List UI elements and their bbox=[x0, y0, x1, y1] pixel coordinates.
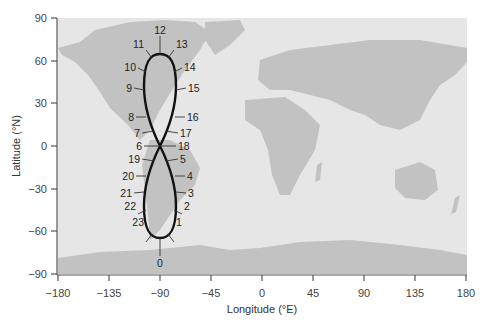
x-tick-0: 0 bbox=[259, 287, 265, 299]
x-tick-45: 45 bbox=[307, 287, 319, 299]
hour-label-14: 14 bbox=[184, 61, 196, 73]
hour-label-7: 7 bbox=[134, 127, 140, 139]
x-tick-180: 180 bbox=[457, 287, 475, 299]
hour-label-6: 6 bbox=[136, 140, 142, 152]
y-tick-90: 90 bbox=[35, 12, 47, 24]
hour-label-23: 23 bbox=[132, 216, 144, 228]
hour-label-16: 16 bbox=[187, 111, 199, 123]
x-tick-135: 135 bbox=[406, 287, 424, 299]
hour-label-11: 11 bbox=[133, 38, 144, 50]
hour-label-1: 1 bbox=[176, 216, 182, 228]
hour-label-22: 22 bbox=[124, 200, 136, 212]
y-tick-minus-90: −90 bbox=[28, 268, 47, 280]
hour-label-4: 4 bbox=[187, 170, 193, 182]
x-tick-minus-135: −135 bbox=[97, 287, 122, 299]
hour-label-15: 15 bbox=[188, 82, 200, 94]
x-axis-title: Longitude (°E) bbox=[227, 303, 297, 315]
y-tick-labels: 90 60 30 0 −30 −60 −90 bbox=[28, 12, 47, 280]
hour-label-5: 5 bbox=[180, 153, 186, 165]
y-tick-minus-30: −30 bbox=[28, 183, 47, 195]
x-tick-labels: −180 −135 −90 −45 0 45 90 135 180 bbox=[46, 287, 476, 299]
chart: 90 60 30 0 −30 −60 −90 −180 −135 −90 −45… bbox=[0, 0, 486, 328]
hour-label-8: 8 bbox=[128, 111, 134, 123]
x-tick-minus-90: −90 bbox=[151, 287, 170, 299]
hour-label-0-text: 0 bbox=[157, 257, 163, 269]
hour-label-3: 3 bbox=[188, 187, 194, 199]
hour-label-13: 13 bbox=[176, 38, 188, 50]
y-tick-30: 30 bbox=[35, 97, 47, 109]
hour-label-19: 19 bbox=[128, 153, 140, 165]
y-tick-0: 0 bbox=[41, 140, 47, 152]
hour-label-18: 18 bbox=[178, 140, 190, 152]
hour-label-12: 12 bbox=[154, 24, 166, 36]
hour-label-20: 20 bbox=[122, 170, 134, 182]
hour-label-21: 21 bbox=[120, 187, 132, 199]
x-tick-90: 90 bbox=[358, 287, 370, 299]
y-tick-60: 60 bbox=[35, 55, 47, 67]
y-tick-minus-60: −60 bbox=[28, 225, 47, 237]
hour-label-17: 17 bbox=[180, 127, 192, 139]
hour-label-10: 10 bbox=[124, 61, 136, 73]
y-axis-title: Latitude (°N) bbox=[10, 115, 22, 177]
x-tick-minus-180: −180 bbox=[46, 287, 71, 299]
hour-label-9: 9 bbox=[126, 82, 132, 94]
x-tick-minus-45: −45 bbox=[202, 287, 221, 299]
hour-label-2: 2 bbox=[184, 200, 190, 212]
